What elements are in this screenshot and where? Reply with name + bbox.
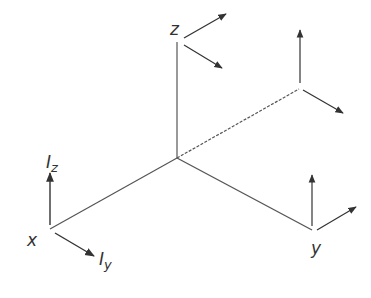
iz-label-subscript: z	[50, 160, 59, 175]
iz-label: Iz	[46, 152, 59, 175]
iy-label: Iy	[99, 249, 112, 272]
arrow-icon	[303, 90, 343, 113]
iy-label-subscript: y	[103, 257, 112, 272]
dashed-diagonal-line	[177, 89, 299, 158]
arrow-icon	[184, 45, 222, 68]
axes-diagram: z x y Iz Iy	[0, 0, 371, 298]
z-end-arrows	[184, 14, 226, 68]
x-axis-line	[50, 158, 177, 229]
arrow-icon	[184, 14, 226, 38]
y-axis-label: y	[310, 238, 322, 258]
x-end-arrows	[50, 173, 94, 256]
iy-arrow-icon	[55, 233, 94, 256]
x-axis-label: x	[26, 230, 38, 250]
corner-end-arrows	[300, 30, 343, 113]
arrow-icon	[317, 207, 356, 230]
z-axis-label: z	[169, 19, 180, 39]
y-end-arrows	[312, 175, 356, 230]
axis-lines	[50, 42, 312, 230]
y-axis-line	[177, 158, 312, 230]
